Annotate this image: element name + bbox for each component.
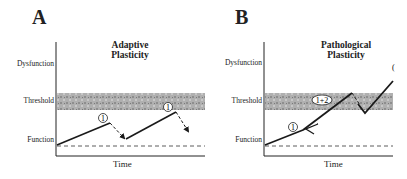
panel-b-rise-1 (265, 130, 303, 145)
panel-a-drop-2 (176, 112, 188, 131)
panel-a-drop-1 (110, 123, 124, 138)
diagram-graphics: 1 1 1 1+2 ( (0, 0, 407, 179)
panel-b-marker-2: 1+2 (316, 96, 329, 105)
panel-b-plot: 1 1+2 ( (264, 42, 395, 156)
panel-a-plot: 1 1 (56, 42, 205, 156)
panel-a-rise-1 (57, 123, 110, 145)
panel-a-threshold-band (57, 93, 205, 110)
panel-a-rise-2 (126, 112, 176, 139)
panel-b-edge-glyph: ( (392, 63, 395, 72)
panel-a-marker-1: 1 (101, 114, 105, 123)
panel-b-marker-1: 1 (291, 123, 295, 132)
panel-a-marker-2: 1 (166, 103, 170, 112)
